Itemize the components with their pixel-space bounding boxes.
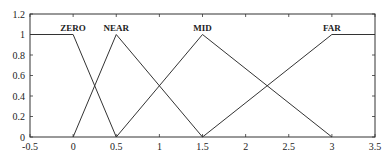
series-line-mid (116, 35, 332, 138)
y-tick-label: 0 (20, 132, 25, 143)
x-tick-label: -0.5 (22, 141, 38, 152)
series-line-zero (30, 35, 116, 138)
x-tick-label: 0 (71, 141, 76, 152)
x-tick-label: 0.5 (110, 141, 123, 152)
y-tick-label: 0.6 (13, 70, 26, 81)
x-tick-label: 3.5 (369, 141, 382, 152)
series-labels: ZERONEARMIDFAR (60, 23, 341, 33)
series-line-near (73, 35, 202, 138)
x-tick-label: 3 (329, 141, 334, 152)
x-tick-label: 2 (243, 141, 248, 152)
membership-function-chart: -0.500.511.522.533.500.20.40.60.811.2 ZE… (0, 0, 391, 160)
series-lines (30, 35, 375, 138)
y-tick-label: 1.2 (13, 9, 26, 20)
y-tick-label: 0.8 (13, 50, 26, 61)
y-tick-label: 0.2 (13, 111, 26, 122)
y-tick-label: 0.4 (13, 91, 26, 102)
x-tick-label: 1 (157, 141, 162, 152)
y-tick-label: 1 (20, 29, 25, 40)
label-zero: ZERO (60, 23, 86, 33)
label-near: NEAR (103, 23, 129, 33)
series-line-far (203, 35, 376, 138)
x-tick-label: 1.5 (196, 141, 209, 152)
label-mid: MID (193, 23, 212, 33)
x-tick-label: 2.5 (283, 141, 296, 152)
label-far: FAR (323, 23, 341, 33)
